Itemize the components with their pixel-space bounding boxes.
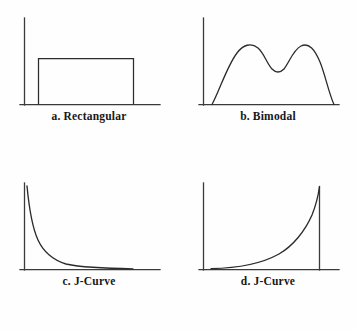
caption-letter: d.: [241, 275, 251, 287]
caption-label: J-Curve: [254, 275, 296, 287]
caption-label: Bimodal: [253, 110, 296, 122]
panel-j-curve-decay: c.J-Curve: [0, 165, 178, 330]
caption-rectangular: a.Rectangular: [0, 110, 178, 122]
caption-label: J-Curve: [74, 275, 116, 287]
plot-area-j-curve-growth: [179, 165, 357, 283]
plot-area-rectangular: [0, 0, 178, 118]
caption-letter: b.: [240, 110, 250, 122]
figure-sheet: a.Rectangular b.Bimodal: [0, 0, 357, 330]
caption-bimodal: b.Bimodal: [179, 110, 357, 122]
panel-rectangular: a.Rectangular: [0, 0, 178, 165]
caption-j-curve-growth: d.J-Curve: [179, 275, 357, 287]
caption-letter: a.: [52, 110, 61, 122]
panel-j-curve-growth: d.J-Curve: [179, 165, 357, 330]
j-curve-growth: [211, 187, 320, 269]
caption-label: Rectangular: [64, 110, 127, 122]
panel-bimodal: b.Bimodal: [179, 0, 357, 165]
caption-j-curve-decay: c.J-Curve: [0, 275, 178, 287]
reverse-j-curve: [27, 186, 133, 269]
caption-letter: c.: [62, 275, 70, 287]
rectangular-distribution-curve: [39, 59, 134, 105]
bimodal-distribution-curve: [212, 45, 334, 105]
plot-area-bimodal: [179, 0, 357, 118]
plot-area-j-curve-decay: [0, 165, 178, 283]
